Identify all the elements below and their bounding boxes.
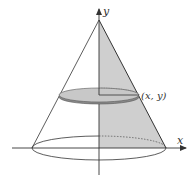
base-ellipse-back-left <box>32 136 99 148</box>
point-label: (x, y) <box>141 90 167 101</box>
x-axis-label: x <box>177 134 184 147</box>
diagram-svg: y x (x, y) <box>0 0 194 189</box>
cone-left-edge <box>32 20 99 148</box>
y-axis-label: y <box>102 5 110 18</box>
cone-diagram: y x (x, y) <box>0 0 194 189</box>
